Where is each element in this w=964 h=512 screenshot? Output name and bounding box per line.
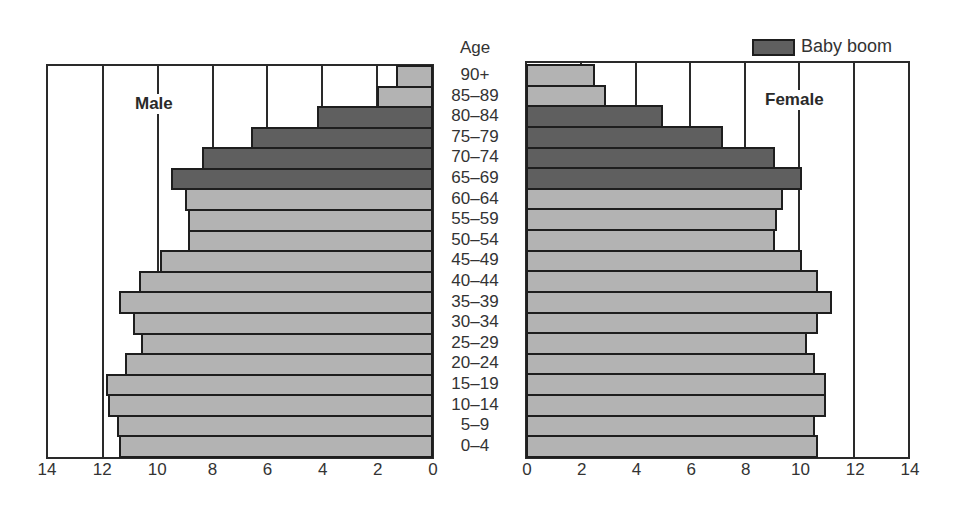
- age-label: 5–9: [432, 415, 518, 435]
- female-bar: [526, 126, 723, 149]
- male-bar: [377, 86, 433, 109]
- female-plot-area: [525, 61, 910, 459]
- female-tick-label: 0: [507, 460, 547, 480]
- female-bar: [526, 373, 826, 396]
- female-tick-label: 14: [890, 460, 930, 480]
- age-label: 20–24: [432, 353, 518, 373]
- age-label: 25–29: [432, 333, 518, 353]
- female-bar: [526, 250, 802, 273]
- male-bar: [141, 333, 433, 356]
- age-label: 50–54: [432, 230, 518, 250]
- age-label: 15–19: [432, 374, 518, 394]
- male-tick-label: 12: [82, 460, 122, 480]
- male-tick-label: 2: [358, 460, 398, 480]
- legend-baby-boom-label: Baby boom: [801, 36, 892, 57]
- male-bar: [171, 168, 433, 191]
- age-label: 10–14: [432, 395, 518, 415]
- female-bar: [526, 208, 777, 231]
- male-bar: [188, 209, 433, 232]
- age-label: 0–4: [432, 436, 518, 456]
- age-label: 90+: [432, 65, 518, 85]
- male-bar: [106, 374, 433, 397]
- female-tick-label: 8: [726, 460, 766, 480]
- female-bar: [526, 394, 826, 417]
- female-bar: [526, 105, 663, 128]
- male-tick-label: 6: [248, 460, 288, 480]
- female-tick-label: 12: [835, 460, 875, 480]
- female-tick-label: 2: [562, 460, 602, 480]
- female-bar: [526, 85, 606, 108]
- male-bar: [188, 230, 433, 253]
- male-bar: [119, 291, 433, 314]
- female-bar: [526, 167, 802, 190]
- male-bar: [117, 415, 433, 438]
- age-label: 35–39: [432, 292, 518, 312]
- male-tick-label: 8: [192, 460, 232, 480]
- male-bar: [396, 65, 433, 88]
- female-panel-label: Female: [763, 90, 826, 110]
- female-bar: [526, 147, 775, 170]
- male-tick-label: 14: [27, 460, 67, 480]
- age-axis-title: Age: [432, 38, 518, 58]
- age-label: 85–89: [432, 86, 518, 106]
- age-label: 30–34: [432, 312, 518, 332]
- male-bar: [108, 394, 433, 417]
- male-bar: [202, 147, 433, 170]
- age-label: 60–64: [432, 189, 518, 209]
- female-bar: [526, 353, 815, 376]
- age-label: 55–59: [432, 209, 518, 229]
- male-tick-label: 0: [413, 460, 453, 480]
- female-tick-label: 10: [781, 460, 821, 480]
- age-label: 65–69: [432, 168, 518, 188]
- age-label: 80–84: [432, 106, 518, 126]
- female-bar: [526, 435, 818, 458]
- female-bar: [526, 332, 807, 355]
- male-bar: [317, 106, 433, 129]
- male-bar: [185, 188, 433, 211]
- female-tick-label: 6: [671, 460, 711, 480]
- male-bar: [125, 353, 433, 376]
- male-panel-label: Male: [133, 94, 175, 114]
- female-bar: [526, 270, 818, 293]
- age-label: 45–49: [432, 250, 518, 270]
- female-bar: [526, 291, 832, 314]
- age-label: 75–79: [432, 127, 518, 147]
- female-bar: [526, 229, 775, 252]
- age-label: 70–74: [432, 147, 518, 167]
- female-tick-label: 4: [616, 460, 656, 480]
- female-gridline: [853, 63, 855, 457]
- legend-baby-boom-swatch: [752, 39, 795, 56]
- male-tick-label: 4: [303, 460, 343, 480]
- male-tick-label: 10: [137, 460, 177, 480]
- male-bar: [133, 312, 433, 335]
- female-bar: [526, 312, 818, 335]
- male-bar: [160, 250, 433, 273]
- male-bar: [139, 271, 433, 294]
- male-gridline: [102, 66, 104, 457]
- female-bar: [526, 188, 783, 211]
- male-bar: [251, 127, 433, 150]
- female-bar: [526, 415, 815, 438]
- age-label: 40–44: [432, 271, 518, 291]
- female-bar: [526, 64, 595, 87]
- male-plot-area: [46, 64, 434, 459]
- male-bar: [119, 435, 433, 458]
